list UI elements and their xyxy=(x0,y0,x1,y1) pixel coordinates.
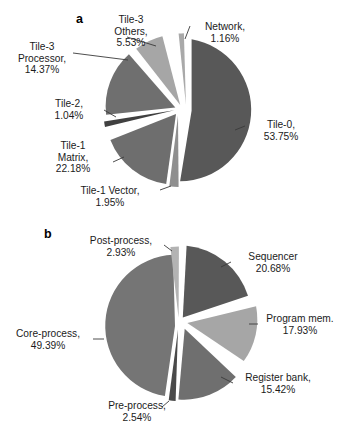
pie-chart-b: b Post-process, 2.93% Sequencer 20.68% P… xyxy=(0,215,347,440)
pie-a-slice-tile-1-matrix xyxy=(110,114,176,184)
leader-line-tile-1-vector xyxy=(160,186,171,190)
pie-a-label-network: Network, 1.16% xyxy=(190,21,260,44)
pie-a-label-tile-1-matrix: Tile-1 Matrix, 22.18% xyxy=(38,140,108,175)
pie-a-label-tile-2: Tile-2, 1.04% xyxy=(38,98,100,121)
pie-a-label-tile-1-vector: Tile-1 Vector, 1.95% xyxy=(62,185,158,208)
pie-b-label-program-mem: Program mem. 17.93% xyxy=(256,313,344,336)
leader-line-tile-3-processor xyxy=(73,53,128,60)
pie-chart-a: a Tile-3 Others, 5.53% Network, 1.16% xyxy=(0,0,347,215)
pie-b-label-sequencer: Sequencer 20.68% xyxy=(233,251,313,274)
pie-a-label-tile-3-processor: Tile-3 Processor, 14.37% xyxy=(6,41,78,76)
pie-a-slice-network xyxy=(179,33,186,104)
pie-b-label-post-process: Post-process, 2.93% xyxy=(80,235,162,258)
pie-b-label-pre-process: Pre-process, 2.54% xyxy=(98,400,176,423)
pie-b-slice-core-process xyxy=(105,255,175,396)
pie-a-label-tile-0: Tile-0, 53.75% xyxy=(249,119,313,142)
pie-b-label-register-bank: Register bank, 15.42% xyxy=(234,372,322,395)
pie-a-label-tile-3-others: Tile-3 Others, 5.53% xyxy=(100,14,162,49)
pie-b-label-core-process: Core-process, 49.39% xyxy=(2,328,94,351)
pie-a-slice-tile-0 xyxy=(180,39,251,181)
